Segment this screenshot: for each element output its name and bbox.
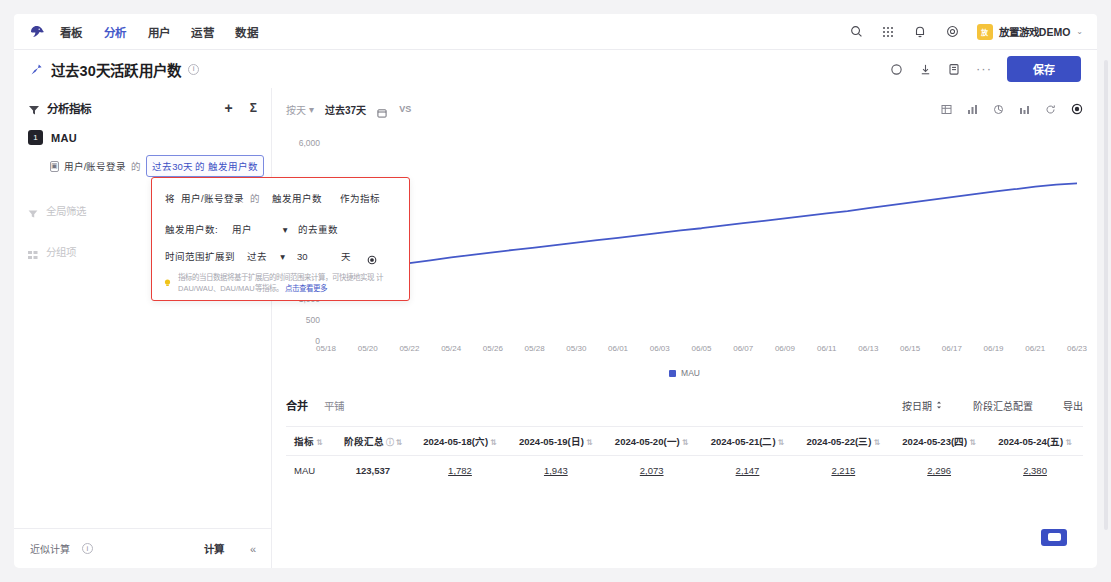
y-tick-label: 0 [286,336,320,346]
popover-row-timerange: 时间范围扩展到 过去 ▾ 30 天 [152,249,409,263]
lightbulb-icon [163,273,172,282]
metric-editor-popover: 将 用户/账号登录 的 触发用户数 作为指标 触发用户数: 用户 ▾ 的去重数 … [151,177,410,301]
settings-gear-icon[interactable] [1070,103,1083,116]
col-stage-total[interactable]: 阶段汇总ⓘ⇅ [334,427,412,456]
pin-icon[interactable] [30,62,44,76]
export-button[interactable]: 导出 [1063,398,1083,413]
chat-support-icon[interactable] [1041,529,1067,546]
popover-timerange-select[interactable]: 过去 ▾ [247,249,285,263]
cell-value[interactable]: 2,380 [987,456,1083,486]
history-icon[interactable] [889,62,903,76]
popover-timerange-value: 过去 [247,249,267,263]
popover-agg-label: 触发用户数: [165,222,218,236]
chart-legend: MAU [272,368,1097,378]
x-tick-label: 06/11 [817,344,836,353]
nav-item-operations[interactable]: 运营 [191,24,214,40]
x-tick-label: 06/19 [984,344,1004,353]
copy-icon[interactable] [947,62,961,76]
approx-calc-label: 近似计算 [30,541,70,556]
popover-days-input[interactable]: 30 [297,251,323,262]
sort-by-date-button[interactable]: 按日期 [902,398,943,413]
top-right-actions: 放 放置游戏DEMO ⌄ [849,24,1083,40]
popover-de: 的 [250,191,260,205]
info-circle-icon[interactable]: i [82,543,93,554]
user-menu[interactable]: 放 放置游戏DEMO ⌄ [977,24,1083,40]
search-icon[interactable] [849,24,864,39]
calendar-icon[interactable] [377,104,388,115]
pie-chart-icon[interactable] [992,103,1005,116]
popover-agg-select[interactable]: 用户 ▾ [232,222,288,236]
stage-summary-config-button[interactable]: 阶段汇总配置 [973,398,1033,413]
col-date-5[interactable]: 2024-05-22(三)⇅ [795,427,891,456]
nav-item-data[interactable]: 数据 [235,24,258,40]
popover-tip-link[interactable]: 点击查看更多 [285,284,327,293]
date-range-label[interactable]: 过去37天 [325,102,366,117]
nav-item-analysis[interactable]: 分析 [104,24,127,40]
vertical-scrollbar[interactable] [1104,60,1108,530]
cell-value[interactable]: 2,147 [700,456,796,486]
popover-agg-suffix: 的去重数 [298,222,338,236]
settings-gear-icon[interactable] [945,24,960,39]
x-tick-label: 05/26 [483,344,503,353]
metrics-panel-header: 分析指标 + Σ [14,88,271,116]
col-date-3[interactable]: 2024-05-20(一)⇅ [604,427,700,456]
nav-item-users[interactable]: 用户 [148,24,171,40]
popover-metric-select[interactable]: 触发用户数 [272,191,322,205]
table-chart-icon[interactable] [940,103,953,116]
chart-svg [326,132,1077,340]
tab-tile[interactable]: 平铺 [324,398,344,413]
col-metric[interactable]: 指标⇅ [286,427,334,456]
add-metric-button[interactable]: + [225,101,233,115]
download-icon[interactable] [918,62,932,76]
col-date-7[interactable]: 2024-05-24(五)⇅ [987,427,1083,456]
vs-compare-button[interactable]: VS [399,104,411,114]
col-date-1[interactable]: 2024-05-18(六)⇅ [412,427,508,456]
settings-gear-icon[interactable] [367,251,377,261]
legend-label-mau[interactable]: MAU [681,368,700,378]
metric-aggregation-chip[interactable]: 过去30天 的 触发用户数 [146,155,264,177]
tab-merge[interactable]: 合并 [286,397,308,413]
table-row: MAU 123,537 1,782 1,943 2,073 2,147 2,21… [286,456,1083,486]
sigma-formula-button[interactable]: Σ [250,102,257,114]
sort-icon [935,400,943,411]
metrics-panel-title: 分析指标 [47,100,91,116]
x-tick-label: 06/17 [942,344,962,353]
cell-value[interactable]: 1,782 [412,456,508,486]
calculate-button[interactable]: 计算 [204,541,224,556]
metric-name[interactable]: MAU [51,132,77,144]
footer-actions: 计算 « [204,541,256,556]
popover-row-aggregation: 触发用户数: 用户 ▾ 的去重数 [152,222,409,236]
collapse-panel-icon[interactable]: « [250,543,256,555]
cell-value[interactable]: 2,215 [795,456,891,486]
cell-value[interactable]: 2,073 [604,456,700,486]
bell-icon[interactable] [913,24,928,39]
cell-value[interactable]: 1,943 [508,456,604,486]
grid-apps-icon[interactable] [881,24,896,39]
avatar: 放 [977,24,993,40]
bird-logo-icon[interactable] [28,23,46,41]
col-date-6[interactable]: 2024-05-23(四)⇅ [891,427,987,456]
col-date-2[interactable]: 2024-05-19(日)⇅ [508,427,604,456]
cell-value[interactable]: 2,296 [891,456,987,486]
popover-event-select[interactable]: 用户/账号登录 [181,191,244,205]
col-date-4[interactable]: 2024-05-21(二)⇅ [700,427,796,456]
x-tick-label: 06/15 [900,344,920,353]
data-table: 指标⇅ 阶段汇总ⓘ⇅ 2024-05-18(六)⇅ 2024-05-19(日)⇅… [286,426,1083,485]
cell-stage-total: 123,537 [334,456,412,486]
save-button[interactable]: 保存 [1007,56,1081,82]
approx-calc-toggle[interactable]: 近似计算 i [30,541,93,556]
bar-chart-icon[interactable] [966,103,979,116]
y-tick-label: 6,000 [286,138,320,148]
more-actions-icon[interactable]: ··· [976,66,992,72]
panel-footer: 近似计算 i 计算 « [14,528,272,568]
x-tick-label: 05/22 [399,344,419,353]
x-tick-label: 05/28 [525,344,545,353]
x-tick-label: 05/18 [316,344,336,353]
metric-event-label[interactable]: 用户/账号登录 [64,159,127,173]
column-chart-icon[interactable] [1018,103,1031,116]
info-circle-icon[interactable]: i [188,64,199,75]
granularity-select[interactable]: 按天 ▾ [286,102,314,117]
nav-item-kanban[interactable]: 看板 [60,24,83,40]
x-tick-label: 05/30 [566,344,586,353]
refresh-icon[interactable] [1044,103,1057,116]
